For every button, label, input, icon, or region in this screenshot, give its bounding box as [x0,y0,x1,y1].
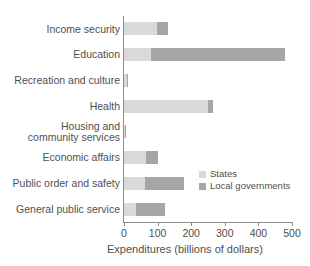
legend-label: States [210,168,237,180]
x-tick-200 [191,222,192,226]
category-label: Economic affairs [2,152,120,164]
category-label: Recreation and culture [2,75,120,87]
bar-segment-states [124,22,157,35]
bar-row: Income security [0,16,310,42]
bar-segment-states [124,203,136,216]
bar-segment-states [124,151,146,164]
legend-item: Local governments [199,180,290,192]
horizontal-stacked-bar-chart: 0100200300400500 Income securityEducatio… [0,0,310,266]
x-tick-300 [225,222,226,226]
category-label: General public service [2,204,120,216]
bar-segment-local-governments [127,74,128,87]
category-label: Education [2,49,120,61]
bar-row: Health [0,93,310,119]
bar-segment-local-governments [151,48,285,61]
x-tick-400 [258,222,259,226]
x-tick-label-0: 0 [121,227,127,239]
x-tick-label-400: 400 [250,227,268,239]
bar-segment-states [124,100,208,113]
bar-row: Education [0,42,310,68]
category-label: Income security [2,24,120,36]
bar-row: Recreation and culture [0,68,310,94]
legend-item: States [199,168,290,180]
category-label: Public order and safety [2,178,120,190]
bar-segment-local-governments [145,177,184,190]
bar-segment-local-governments [136,203,165,216]
bar-segment-local-governments [208,100,213,113]
x-tick-label-200: 200 [182,227,200,239]
category-label: Health [2,101,120,113]
legend-swatch-icon [199,183,206,190]
x-axis-title: Expenditures (billions of dollars) [0,243,310,255]
x-tick-100 [158,222,159,226]
x-tick-500 [292,222,293,226]
legend-label: Local governments [210,180,290,192]
category-label: Housing and community services [2,121,120,144]
legend-swatch-icon [199,171,206,178]
x-tick-label-100: 100 [149,227,167,239]
bar-row: Housing and community services [0,119,310,145]
bar-segment-states [124,48,151,61]
x-tick-0 [124,222,125,226]
x-tick-label-500: 500 [283,227,301,239]
x-axis-title-text: Expenditures (billions of dollars) [47,243,263,255]
bar-segment-local-governments [146,151,158,164]
bar-row: Economic affairs [0,145,310,171]
chart-legend: StatesLocal governments [199,168,290,192]
bar-segment-local-governments [125,125,126,138]
bar-segment-states [124,177,145,190]
bar-segment-local-governments [157,22,168,35]
bar-row: General public service [0,196,310,222]
x-tick-label-300: 300 [216,227,234,239]
x-axis-line [123,222,293,223]
